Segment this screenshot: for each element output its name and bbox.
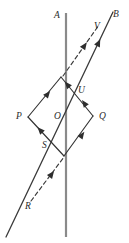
- figure-canvas: A B V U P O Q S R: [0, 0, 129, 243]
- dashed-ray-bottom: [31, 157, 64, 201]
- label-p: P: [15, 111, 22, 121]
- label-q: Q: [99, 111, 106, 121]
- label-o: O: [54, 111, 61, 121]
- label-a: A: [53, 10, 60, 20]
- label-s: S: [42, 140, 47, 150]
- label-v: V: [94, 21, 101, 31]
- geometry-figure: A B V U P O Q S R: [0, 0, 129, 243]
- dashed-ray-top: [63, 25, 99, 76]
- label-b: B: [113, 9, 119, 19]
- label-u: U: [78, 85, 86, 95]
- arrow-dashed-top: [80, 40, 90, 50]
- arrow-diagonal-upper: [94, 38, 103, 48]
- arrow-q-inner: [79, 98, 88, 108]
- label-r: R: [24, 201, 31, 211]
